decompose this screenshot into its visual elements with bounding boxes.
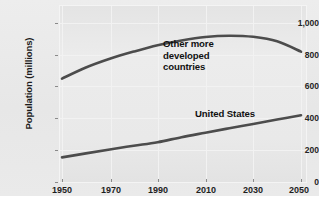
x-tick-mark-1950 [62, 179, 63, 182]
y-tick-label-800: 800 [283, 50, 319, 60]
series-line-united-states [62, 115, 301, 157]
plot-area [60, 6, 306, 182]
series-curves [60, 6, 306, 182]
y-tick-mark-800 [55, 55, 58, 56]
y-axis-title: Population (millions) [23, 4, 34, 164]
series-annotation-other-line-2: developed [163, 50, 255, 62]
y-tick-mark-400 [55, 118, 58, 119]
y-tick-mark-0 [55, 182, 58, 183]
x-tick-label-1950: 1950 [40, 185, 84, 195]
series-annotation-other-line-3: countries [163, 61, 255, 73]
y-tick-mark-1000 [55, 23, 58, 24]
y-tick-label-400: 400 [283, 113, 319, 123]
chart-figure: Population (millions) 1,000 800 600 400 … [0, 0, 319, 213]
series-annotation-other-more-developed-countries: Other more developed countries [163, 38, 255, 73]
y-tick-mark-200 [55, 150, 58, 151]
y-tick-label-200: 200 [283, 145, 319, 155]
x-tick-label-1970: 1970 [89, 185, 133, 195]
x-tick-label-2050: 2050 [277, 185, 319, 195]
series-annotation-other-line-1: Other more [163, 38, 255, 50]
x-tick-mark-1990 [158, 179, 159, 182]
x-tick-label-1990: 1990 [136, 185, 180, 195]
y-tick-label-600: 600 [283, 81, 319, 91]
x-tick-mark-1970 [111, 179, 112, 182]
x-tick-label-2030: 2030 [231, 185, 275, 195]
series-annotation-united-states: United States [195, 108, 285, 120]
y-tick-mark-600 [55, 86, 58, 87]
x-tick-label-2010: 2010 [184, 185, 228, 195]
x-tick-mark-2050 [301, 179, 302, 182]
y-tick-label-1000: 1,000 [283, 18, 319, 28]
x-tick-mark-2010 [206, 179, 207, 182]
x-tick-mark-2030 [253, 179, 254, 182]
